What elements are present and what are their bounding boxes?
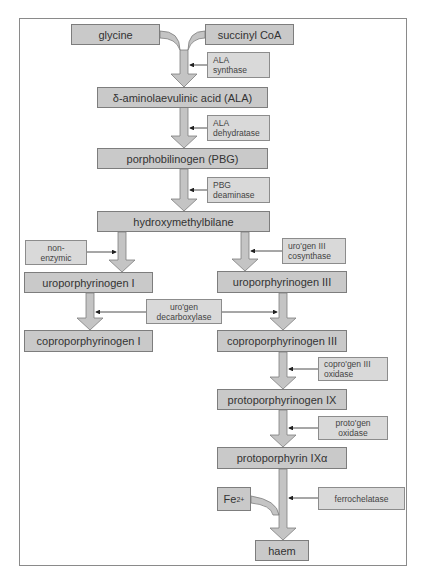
enzyme-label: PBG bbox=[213, 180, 264, 190]
node-label: Fe bbox=[224, 493, 237, 505]
enzyme-label: dehydratase bbox=[213, 128, 264, 138]
enzyme-ferrochelatase: ferrochelatase bbox=[318, 487, 405, 510]
node-label: succinyl CoA bbox=[218, 29, 282, 41]
node-label: protoporphyrin IXα bbox=[237, 452, 328, 464]
enzyme-label: uro'gen bbox=[170, 302, 198, 312]
node-ala: δ-aminolaevulinic acid (ALA) bbox=[97, 87, 268, 108]
node-haem: haem bbox=[255, 540, 309, 561]
enzyme-label: cosynthase bbox=[288, 251, 340, 261]
node-protoporphyrin-9a: protoporphyrin IXα bbox=[217, 447, 347, 469]
node-coproporphyrinogen-1: coproporphyrinogen I bbox=[24, 330, 153, 352]
node-label: protoporphyrinogen IX bbox=[228, 394, 337, 406]
node-coproporphyrinogen-3: coproporphyrinogen III bbox=[217, 330, 347, 352]
enzyme-label: oxidase bbox=[338, 428, 367, 438]
enzyme-label: synthase bbox=[213, 65, 264, 75]
node-uroporphyrinogen-3: uroporphyrinogen III bbox=[217, 271, 347, 293]
enzyme-coprogen3-oxidase: copro'gen III oxidase bbox=[318, 357, 388, 381]
node-succinyl-coa: succinyl CoA bbox=[205, 24, 294, 45]
node-label: hydroxymethylbilane bbox=[133, 216, 233, 228]
enzyme-ala-synthase: ALA synthase bbox=[207, 52, 270, 78]
enzyme-label: uro'gen III bbox=[288, 241, 340, 251]
enzyme-label: ferrochelatase bbox=[335, 494, 389, 504]
node-hydroxymethylbilane: hydroxymethylbilane bbox=[97, 211, 270, 232]
enzyme-ala-dehydratase: ALA dehydratase bbox=[207, 115, 270, 141]
enzyme-label: oxidase bbox=[324, 369, 382, 379]
node-label: coproporphyrinogen I bbox=[37, 335, 141, 347]
enzyme-label: ALA bbox=[213, 55, 264, 65]
node-iron: Fe2+ bbox=[217, 487, 251, 511]
enzyme-protogen-oxidase: proto'gen oxidase bbox=[318, 416, 388, 440]
merge-arrow bbox=[160, 31, 205, 87]
enzyme-urogen-decarboxylase: uro'gen decarboxylase bbox=[146, 299, 222, 324]
enzyme-pbg-deaminase: PBG deaminase bbox=[207, 177, 270, 203]
node-label: uroporphyrinogen I bbox=[42, 277, 134, 289]
node-uroporphyrinogen-1: uroporphyrinogen I bbox=[24, 272, 153, 293]
node-label: haem bbox=[268, 545, 296, 557]
node-glycine: glycine bbox=[71, 24, 160, 45]
enzyme-label: decarboxylase bbox=[157, 312, 212, 322]
enzyme-urogen3-cosynthase: uro'gen III cosynthase bbox=[282, 238, 346, 264]
node-pbg: porphobilinogen (PBG) bbox=[97, 148, 268, 169]
enzyme-label: ALA bbox=[213, 118, 264, 128]
node-protoporphyrinogen-9: protoporphyrinogen IX bbox=[217, 389, 347, 410]
enzyme-label: copro'gen III bbox=[324, 359, 382, 369]
node-label: glycine bbox=[98, 29, 132, 41]
node-label: porphobilinogen (PBG) bbox=[127, 153, 239, 165]
iron-charge: 2+ bbox=[236, 496, 244, 503]
enzyme-label: deaminase bbox=[213, 190, 264, 200]
node-label: δ-aminolaevulinic acid (ALA) bbox=[113, 92, 252, 104]
enzyme-label: non- bbox=[47, 243, 64, 253]
node-label: coproporphyrinogen III bbox=[227, 335, 337, 347]
enzyme-non-enzymic: non- enzymic bbox=[25, 240, 87, 265]
node-label: uroporphyrinogen III bbox=[233, 276, 331, 288]
enzyme-label: enzymic bbox=[40, 253, 71, 263]
enzyme-label: proto'gen bbox=[335, 418, 370, 428]
